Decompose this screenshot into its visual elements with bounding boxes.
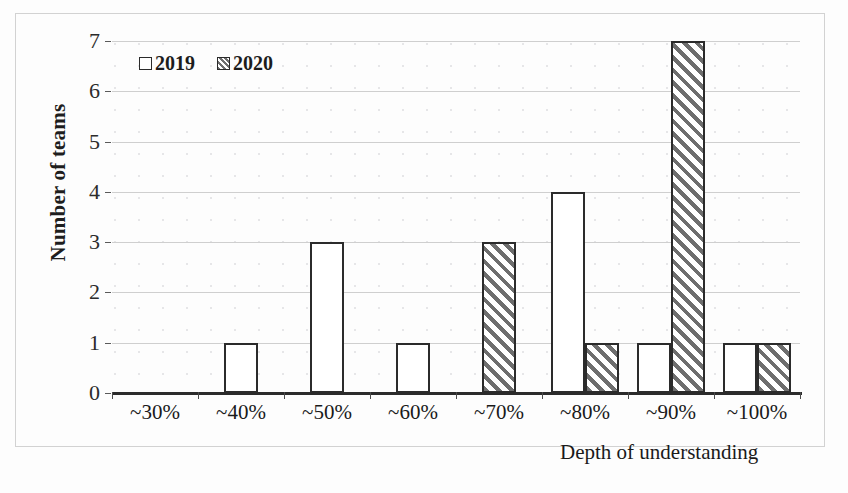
y-tick-mark-2 — [105, 292, 111, 293]
bar-2019-~60% — [396, 343, 430, 393]
y-tick-mark-7 — [105, 41, 111, 42]
legend-swatch-2020-icon — [217, 57, 230, 70]
y-tick-label-2: 2 — [72, 281, 100, 303]
x-tick-label-1: ~40% — [198, 400, 284, 425]
x-tick-label-5: ~80% — [542, 400, 628, 425]
bar-2020-~90% — [671, 41, 705, 393]
bar-2019-~80% — [551, 192, 585, 393]
bar-2019-~100% — [723, 343, 757, 393]
y-tick-label-4: 4 — [72, 181, 100, 203]
bar-2019-~50% — [310, 242, 344, 393]
legend-item-2019: 2019 — [139, 52, 195, 75]
y-tick-label-6: 6 — [72, 80, 100, 102]
legend-label-2019: 2019 — [155, 52, 195, 75]
chart-legend: 2019 2020 — [139, 52, 273, 75]
bar-2020-~80% — [585, 343, 619, 393]
y-tick-mark-6 — [105, 91, 111, 92]
y-tick-mark-4 — [105, 192, 111, 193]
x-tick-label-7: ~100% — [714, 400, 800, 425]
x-tick-mark-2 — [284, 392, 285, 399]
plot-area — [112, 41, 800, 393]
x-tick-mark-1 — [198, 392, 199, 399]
legend-swatch-2019-icon — [139, 57, 152, 70]
legend-item-2020: 2020 — [217, 52, 273, 75]
x-tick-label-6: ~90% — [628, 400, 714, 425]
y-tick-label-1: 1 — [72, 332, 100, 354]
x-tick-mark-4 — [456, 392, 457, 399]
x-tick-mark-6 — [628, 392, 629, 399]
figure-container: Number of teams Depth of understanding 2… — [0, 0, 848, 493]
legend-label-2020: 2020 — [233, 52, 273, 75]
y-tick-mark-5 — [105, 142, 111, 143]
bar-2019-~40% — [224, 343, 258, 393]
x-tick-mark-5 — [542, 392, 543, 399]
x-tick-label-2: ~50% — [284, 400, 370, 425]
x-tick-mark-3 — [370, 392, 371, 399]
x-tick-mark-7 — [714, 392, 715, 399]
x-tick-label-4: ~70% — [456, 400, 542, 425]
y-axis-title: Number of teams — [46, 73, 71, 293]
y-tick-label-7: 7 — [72, 30, 100, 52]
y-tick-label-5: 5 — [72, 131, 100, 153]
bar-2019-~90% — [637, 343, 671, 393]
bar-2020-~100% — [757, 343, 791, 393]
x-axis-line — [112, 392, 802, 395]
bar-2020-~70% — [482, 242, 516, 393]
y-tick-label-0: 0 — [72, 382, 100, 404]
x-tick-mark-0 — [112, 392, 113, 399]
x-tick-label-3: ~60% — [370, 400, 456, 425]
x-tick-label-0: ~30% — [112, 400, 198, 425]
x-axis-title: Depth of understanding — [560, 440, 758, 465]
x-tick-mark-end — [800, 392, 801, 399]
y-tick-mark-1 — [105, 343, 111, 344]
y-tick-label-3: 3 — [72, 231, 100, 253]
y-tick-mark-3 — [105, 242, 111, 243]
y-tick-mark-0 — [105, 393, 111, 394]
